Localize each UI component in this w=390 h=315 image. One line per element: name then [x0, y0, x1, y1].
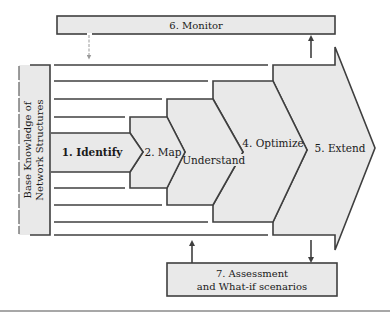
step-identify: 1. Identify	[51, 133, 143, 172]
base-knowledge-label-line2: Network Structures	[34, 99, 45, 200]
step-identify-label: 1. Identify	[62, 146, 124, 158]
assessment-label-line2: and What-if scenarios	[197, 281, 307, 292]
step-optimize-label: 4. Optimize	[242, 137, 303, 149]
base-knowledge-bracket: Base Knowledge of Network Structures	[19, 65, 50, 235]
monitor-box: 6. Monitor	[57, 16, 335, 34]
diagram-canvas: 6. Monitor Base Knowledge of Network Str…	[0, 0, 390, 315]
assessment-label-line1: 7. Assessment	[216, 268, 288, 279]
step-map-label: 2. Map	[144, 146, 181, 158]
step-extend-label: 5. Extend	[315, 142, 366, 154]
assessment-box: 7. Assessment and What-if scenarios	[167, 263, 337, 296]
base-knowledge-label-line1: Base Knowledge of	[22, 100, 33, 198]
monitor-label: 6. Monitor	[169, 20, 223, 31]
